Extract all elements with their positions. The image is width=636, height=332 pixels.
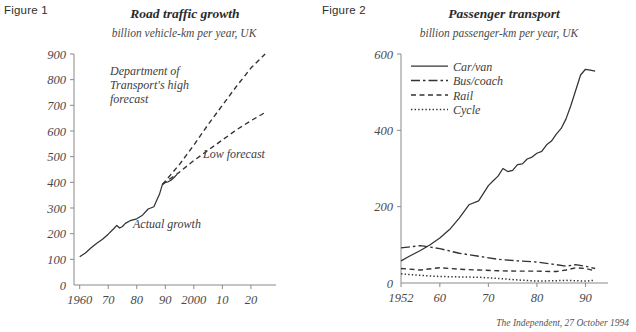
y-tick-label: 600 bbox=[47, 125, 67, 139]
chart-page: Figure 1 Road traffic growth billion veh… bbox=[0, 0, 636, 332]
y-tick-label: 800 bbox=[47, 73, 67, 87]
x-tick-label: 1952 bbox=[389, 291, 414, 305]
annotation-low-forecast: Low forecast bbox=[202, 147, 266, 161]
series-line bbox=[401, 246, 595, 269]
y-tick-label: 700 bbox=[47, 99, 67, 113]
y-tick-label: 300 bbox=[46, 202, 67, 216]
x-tick-label: 60 bbox=[434, 291, 447, 305]
y-tick-label: 0 bbox=[387, 277, 394, 291]
figure-1-panel: Figure 1 Road traffic growth billion veh… bbox=[0, 0, 318, 332]
figure-2-legend: Car/vanBus/coachRailCycle bbox=[411, 60, 503, 118]
figure-1-plot: 0100200300400500600700800900196070809020… bbox=[0, 0, 318, 332]
annotation-high-forecast-line3: forecast bbox=[110, 92, 149, 106]
figure-2-plot: 0200400600195260708090 Car/vanBus/coachR… bbox=[318, 0, 636, 332]
y-tick-label: 400 bbox=[47, 176, 67, 190]
x-tick-label: 1960 bbox=[67, 293, 93, 307]
y-tick-label: 500 bbox=[47, 150, 67, 164]
y-tick-label: 100 bbox=[47, 253, 67, 267]
x-tick-label: 70 bbox=[102, 293, 115, 307]
x-tick-label: 90 bbox=[579, 291, 592, 305]
x-tick-label: 20 bbox=[245, 293, 258, 307]
y-tick-label: 600 bbox=[374, 48, 394, 62]
legend-label: Car/van bbox=[453, 60, 492, 74]
source-credit: The Independent, 27 October 1994 bbox=[496, 318, 629, 328]
figure-2-panel: Figure 2 Passenger transport billion pas… bbox=[318, 0, 636, 332]
series-line bbox=[401, 268, 595, 272]
y-tick-label: 400 bbox=[374, 124, 394, 138]
figure-2-series bbox=[401, 69, 595, 281]
series-line bbox=[401, 69, 595, 261]
x-tick-label: 90 bbox=[159, 293, 172, 307]
y-tick-label: 900 bbox=[47, 48, 67, 62]
annotation-high-forecast-line1: Department of bbox=[109, 64, 181, 78]
legend-label: Bus/coach bbox=[453, 74, 503, 88]
x-tick-label: 10 bbox=[216, 293, 229, 307]
legend-label: Rail bbox=[452, 89, 474, 103]
series-line bbox=[80, 175, 177, 257]
y-tick-label: 200 bbox=[47, 227, 67, 241]
x-tick-label: 80 bbox=[531, 291, 544, 305]
annotation-high-forecast-line2: Transport's high bbox=[110, 78, 189, 92]
figure-1-annotations: Department of Transport's high forecast … bbox=[109, 64, 266, 231]
series-line bbox=[401, 274, 595, 281]
y-tick-label: 0 bbox=[60, 279, 67, 293]
x-tick-label: 80 bbox=[131, 293, 144, 307]
x-tick-label: 70 bbox=[482, 291, 495, 305]
x-tick-label: 2000 bbox=[181, 293, 207, 307]
annotation-actual-growth: Actual growth bbox=[132, 217, 201, 231]
y-tick-label: 200 bbox=[374, 200, 394, 214]
legend-label: Cycle bbox=[453, 103, 481, 117]
